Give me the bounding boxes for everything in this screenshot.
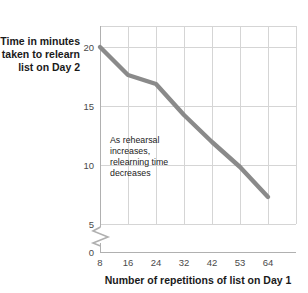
y-tick-15: 15 xyxy=(83,101,94,112)
x-tick-42: 42 xyxy=(207,257,218,268)
y-tick-5: 5 xyxy=(89,219,94,230)
x-axis-title: Number of repetitions of list on Day 1 xyxy=(105,274,292,286)
chart-container: 20 15 10 5 0 8 16 24 32 42 53 64 As rehe… xyxy=(0,0,308,293)
trend-note-line-2: increases, xyxy=(110,146,150,156)
x-tick-53: 53 xyxy=(235,257,246,268)
y-axis-title-line-2: taken to relearn xyxy=(2,48,80,60)
y-tick-0: 0 xyxy=(89,247,94,258)
x-tick-8: 8 xyxy=(97,257,102,268)
trend-note-line-3: relearning time xyxy=(110,157,168,167)
trend-note-line-4: decreases xyxy=(110,168,151,178)
x-tick-16: 16 xyxy=(123,257,134,268)
y-tick-10: 10 xyxy=(83,160,94,171)
y-axis-title-line-3: list on Day 2 xyxy=(18,61,80,73)
x-tick-64: 64 xyxy=(263,257,274,268)
relearning-time-line-chart: 20 15 10 5 0 8 16 24 32 42 53 64 As rehe… xyxy=(0,0,308,293)
x-tick-32: 32 xyxy=(179,257,190,268)
x-tick-24: 24 xyxy=(151,257,162,268)
y-tick-20: 20 xyxy=(83,42,94,53)
y-axis-title-line-1: Time in minutes xyxy=(0,35,80,47)
trend-note-line-1: As rehearsal xyxy=(110,135,159,145)
